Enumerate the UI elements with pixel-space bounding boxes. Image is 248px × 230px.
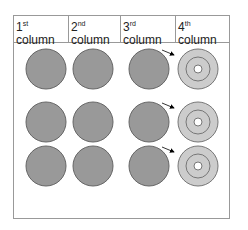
solid-circle-icon bbox=[73, 146, 113, 186]
solid-circle-icon bbox=[129, 49, 169, 89]
solid-circle-icon bbox=[129, 146, 169, 186]
arrow-icon bbox=[162, 103, 174, 108]
row-1 bbox=[26, 49, 218, 89]
row-2 bbox=[26, 102, 218, 142]
arrow-icon bbox=[162, 50, 174, 55]
arrow-icon bbox=[162, 147, 174, 152]
solid-circle-icon bbox=[26, 146, 66, 186]
solid-circle-icon bbox=[26, 102, 66, 142]
target-rings-icon bbox=[178, 102, 218, 142]
target-rings-icon bbox=[178, 146, 218, 186]
solid-circle-icon bbox=[129, 102, 169, 142]
solid-circle-icon bbox=[73, 49, 113, 89]
target-rings-icon bbox=[178, 49, 218, 89]
solid-circle-icon bbox=[73, 102, 113, 142]
circles-diagram bbox=[0, 0, 248, 230]
row-3 bbox=[26, 146, 218, 186]
solid-circle-icon bbox=[26, 49, 66, 89]
